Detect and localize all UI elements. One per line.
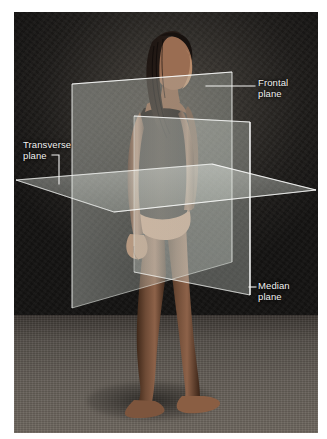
photograph — [14, 12, 318, 433]
label-median-plane: Median plane — [258, 281, 290, 302]
anatomical-planes-figure: Frontal plane Median plane Transverse pl… — [0, 0, 327, 439]
label-frontal-plane: Frontal plane — [258, 78, 288, 99]
label-transverse-plane: Transverse plane — [23, 140, 71, 161]
subject-figure — [14, 12, 318, 433]
